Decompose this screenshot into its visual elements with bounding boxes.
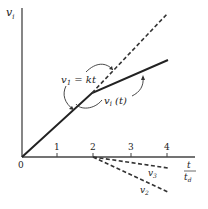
v1-arrow-to-line [64,86,74,110]
y-axis-label: vi [6,6,14,21]
x-tick-label-4: 4 [164,142,170,152]
v1-label: v1 = kt [61,74,97,87]
svg-text:t: t [187,160,191,170]
vi-label: vi (t) [104,95,127,108]
diagram-canvas: 1 2 3 4 0 vi t td v1 = kt vi (t) v3 v2 [0,0,208,209]
x-tick-label-1: 1 [54,142,60,152]
v1-arrow-to-dashed [86,64,113,72]
v2-label: v2 [140,185,149,196]
v1-dashed-line [92,13,168,93]
arrowhead-icon [141,75,145,80]
x-tick-label-3: 3 [128,142,134,152]
x-axis-label: t td [184,160,196,183]
origin-label: 0 [18,160,24,170]
v3-dashed-line [93,157,168,168]
v3-label: v3 [148,168,157,179]
x-tick-label-2: 2 [90,142,96,152]
svg-text:td: td [184,172,192,183]
